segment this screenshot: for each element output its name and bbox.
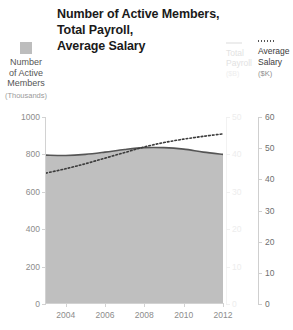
y-axis-salary: 6050403020100 (258, 112, 292, 307)
title-line-1: Number of Active Members, (57, 6, 267, 22)
y-axis-payroll-spine (226, 117, 227, 304)
legend-members-line-2: of Active (3, 68, 49, 79)
dotted-line-swatch-icon (258, 40, 276, 42)
y-axis-left-tick-label: 200 (26, 262, 40, 272)
y-axis-salary-tick-label: 60 (265, 112, 274, 122)
legend-members-line-3: Members (3, 78, 49, 89)
y-axis-payroll-tick-label: 30 (232, 187, 241, 197)
square-swatch-icon (20, 42, 32, 54)
legend-payroll-unit: ($B) (226, 69, 254, 78)
y-axis-salary-tick (258, 304, 262, 305)
legend-average-salary: Average Salary ($K) (258, 40, 293, 78)
y-axis-salary-tick-label: 10 (265, 268, 274, 278)
y-axis-payroll-tick (226, 117, 230, 118)
y-axis-salary-tick-label: 50 (265, 143, 274, 153)
y-axis-payroll-tick-label: 20 (232, 224, 241, 234)
x-axis-tick (105, 303, 106, 307)
y-axis-salary-tick-label: 20 (265, 237, 274, 247)
y-axis-salary-tick (258, 148, 262, 149)
legend-members-unit: (Thousands) (3, 91, 49, 101)
y-axis-left-tick-label: 400 (26, 224, 40, 234)
x-axis-tick-label: 2006 (96, 310, 115, 320)
x-axis-tick (66, 303, 67, 307)
legend-payroll-line-1: Total (226, 48, 254, 58)
y-axis-payroll-tick (226, 229, 230, 230)
legend-active-members-label: Number of Active Members (3, 57, 49, 89)
y-axis-left-tick-label: 0 (35, 299, 40, 309)
y-axis-payroll: 50403020100 (226, 112, 246, 307)
x-axis-tick (144, 303, 145, 307)
y-axis-payroll-tick (226, 304, 230, 305)
y-axis-payroll-tick (226, 154, 230, 155)
y-axis-left-tick-label: 800 (26, 149, 40, 159)
x-axis-tick-label: 2010 (174, 310, 193, 320)
y-axis-salary-tick (258, 273, 262, 274)
x-axis-tick-label: 2008 (135, 310, 154, 320)
y-axis-salary-tick (258, 242, 262, 243)
y-axis-salary-tick (258, 117, 262, 118)
plot-area (46, 112, 223, 303)
y-axis-left-tick-label: 1000 (21, 112, 40, 122)
y-axis-payroll-tick-label: 0 (232, 299, 237, 309)
legend-salary-line-1: Average (258, 46, 293, 57)
x-axis-tick (223, 303, 224, 307)
x-axis: 20042006200820102012 (46, 303, 223, 327)
plot-svg (46, 112, 223, 303)
legend-salary-line-2: Salary (258, 57, 293, 68)
y-axis-salary-tick (258, 179, 262, 180)
x-axis-tick-label: 2012 (214, 310, 233, 320)
x-axis-tick (184, 303, 185, 307)
legend-active-members: Number of Active Members (Thousands) (3, 42, 49, 101)
y-axis-salary-tick-label: 0 (265, 299, 270, 309)
line-swatch-icon (226, 42, 242, 44)
legend-total-payroll: Total Payroll ($B) (226, 42, 254, 78)
y-axis-payroll-tick-label: 40 (232, 149, 241, 159)
x-axis-spine (46, 303, 223, 304)
y-axis-salary-tick-label: 40 (265, 174, 274, 184)
y-axis-salary-tick (258, 211, 262, 212)
legend-salary-label: Average Salary (258, 46, 293, 67)
y-axis-salary-tick-label: 30 (265, 206, 274, 216)
y-axis-payroll-tick (226, 267, 230, 268)
y-axis-payroll-tick-label: 10 (232, 262, 241, 272)
legend-payroll-line-2: Payroll (226, 58, 254, 68)
chart-container: Number of Active Members, Total Payroll,… (0, 0, 293, 330)
y-axis-left-tick-label: 600 (26, 187, 40, 197)
x-axis-tick-label: 2004 (56, 310, 75, 320)
legend-members-line-1: Number (3, 57, 49, 68)
y-axis-payroll-tick-label: 50 (232, 112, 241, 122)
series-active-members-area (46, 148, 223, 303)
y-axis-left: 10008006004002000 (34, 112, 46, 307)
title-line-2: Total Payroll, (57, 22, 267, 38)
y-axis-payroll-tick (226, 192, 230, 193)
legend-salary-unit: ($K) (258, 69, 293, 78)
legend-payroll-label: Total Payroll (226, 48, 254, 68)
